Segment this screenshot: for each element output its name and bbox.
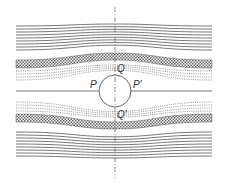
streamline [16,27,212,29]
lower-streamlines [16,132,212,158]
streamline [16,153,212,155]
streamline [16,24,212,26]
streamline [16,156,212,158]
flow-diagram [0,0,226,182]
streamline [16,45,212,50]
label-q: Q [117,64,125,74]
upper-hatched-band [16,53,212,68]
lower-hatched-band [16,114,212,129]
upper-streamlines [16,24,212,50]
label-p: P [90,80,97,90]
label-q-prime: Q′ [117,110,127,120]
label-p-prime: P′ [133,80,142,90]
streamline [16,132,212,137]
